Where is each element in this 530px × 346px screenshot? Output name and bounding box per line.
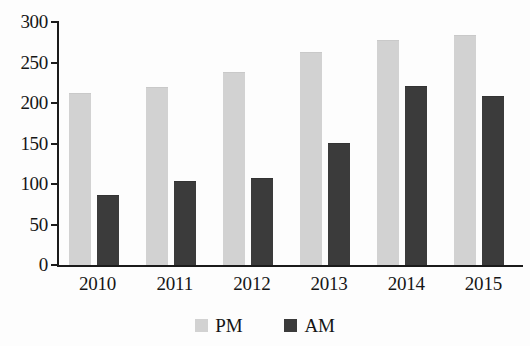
y-axis-tick-label: 300: [4, 12, 48, 31]
x-axis-tick-label: 2011: [136, 274, 213, 294]
x-axis-tick-label: 2010: [59, 274, 136, 294]
chart-legend: PMAM: [0, 316, 530, 335]
x-axis-tick-label: 2013: [291, 274, 368, 294]
y-axis-tick-label: 150: [4, 134, 48, 153]
legend-label: PM: [215, 316, 242, 335]
bar-am-2010: [97, 195, 119, 265]
bar-am-2011: [174, 181, 196, 265]
bar-pm-2015: [454, 35, 476, 265]
legend-item-pm: PM: [195, 316, 242, 335]
legend-item-am: AM: [284, 316, 334, 335]
legend-label: AM: [304, 316, 334, 335]
x-axis-tick-label: 2014: [368, 274, 445, 294]
legend-swatch-icon: [195, 319, 208, 332]
bar-am-2014: [405, 86, 427, 265]
bars-layer: [59, 22, 522, 265]
legend-swatch-icon: [284, 319, 297, 332]
y-axis-tick-label: 250: [4, 53, 48, 72]
x-axis-tick-label: 2015: [445, 274, 522, 294]
bar-am-2015: [482, 96, 504, 265]
x-axis-tick-label: 2012: [213, 274, 290, 294]
bar-am-2013: [328, 143, 350, 266]
bar-pm-2010: [69, 93, 91, 265]
bar-pm-2013: [300, 52, 322, 265]
bar-pm-2011: [146, 87, 168, 265]
y-axis-tick-label: 50: [4, 215, 48, 234]
bar-am-2012: [251, 178, 273, 265]
y-axis-tick-label: 0: [4, 255, 48, 274]
y-axis-tick-label: 200: [4, 93, 48, 112]
bar-chart: 050100150200250300 201020112012201320142…: [0, 0, 530, 346]
y-axis-tick-label: 100: [4, 174, 48, 193]
x-axis-line: [57, 265, 523, 267]
bar-pm-2014: [377, 40, 399, 265]
bar-pm-2012: [223, 72, 245, 265]
